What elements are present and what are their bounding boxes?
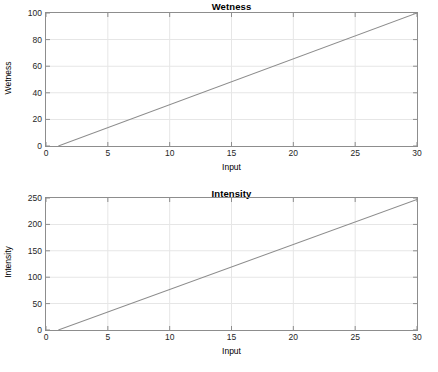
y-tick-label: 200 — [28, 220, 42, 229]
x-tick-label: 20 — [289, 333, 298, 342]
x-tick-label: 10 — [165, 149, 174, 158]
y-tick-label: 250 — [28, 194, 42, 203]
x-tick-label: 10 — [165, 333, 174, 342]
y-tick-label: 0 — [37, 142, 42, 151]
y-axis-label-wetness: Wetness — [3, 48, 13, 108]
x-tick-label: 25 — [350, 333, 359, 342]
plot-panel-intensity: Intensity Intensity 05010015020025005101… — [0, 186, 438, 372]
y-tick-label: 150 — [28, 246, 42, 255]
y-axis-label-intensity: Intensity — [3, 232, 13, 292]
x-tick-label: 0 — [44, 149, 49, 158]
y-tick-label: 0 — [37, 326, 42, 335]
y-tick-label: 50 — [33, 299, 42, 308]
y-tick-label: 80 — [33, 35, 42, 44]
x-tick-label: 20 — [289, 149, 298, 158]
x-tick-label: 0 — [44, 333, 49, 342]
x-tick-label: 5 — [105, 333, 110, 342]
x-tick-label: 5 — [105, 149, 110, 158]
x-tick-label: 30 — [412, 333, 421, 342]
plot-area-intensity — [46, 198, 417, 330]
x-tick-label: 25 — [350, 149, 359, 158]
x-tick-label: 30 — [412, 149, 421, 158]
plot-area-wetness — [46, 13, 417, 146]
x-tick-label: 15 — [227, 149, 236, 158]
x-axis-label-wetness: Input — [45, 162, 418, 172]
figure-canvas: Wetness Wetness 020406080100051015202530… — [0, 0, 438, 372]
axes-wetness: 020406080100051015202530 — [45, 12, 418, 147]
y-tick-label: 20 — [33, 115, 42, 124]
plot-title-wetness: Wetness — [45, 1, 418, 12]
y-tick-label: 40 — [33, 88, 42, 97]
x-tick-label: 15 — [227, 333, 236, 342]
y-tick-label: 60 — [33, 62, 42, 71]
plot-panel-wetness: Wetness Wetness 020406080100051015202530… — [0, 0, 438, 186]
y-tick-label: 100 — [28, 273, 42, 282]
y-tick-label: 100 — [28, 9, 42, 18]
axes-intensity: 050100150200250051015202530 — [45, 197, 418, 331]
x-axis-label-intensity: Input — [45, 346, 418, 356]
